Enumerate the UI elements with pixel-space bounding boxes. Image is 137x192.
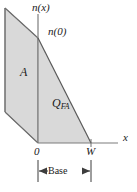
concentration-function-label: n(x) — [32, 2, 50, 13]
base-width-label: W — [86, 146, 95, 157]
base-dimension-label: Base — [48, 166, 67, 176]
concentration-at-zero-label: n(0) — [48, 26, 66, 37]
origin-label: 0 — [34, 146, 40, 157]
figure-container: n(x) n(0) A QFA 0 W x Base — [0, 0, 137, 192]
diagram-canvas — [0, 0, 137, 192]
base-arrowhead-right-icon — [82, 168, 90, 175]
base-arrowhead-left-icon — [39, 168, 47, 175]
area-label: A — [20, 66, 27, 78]
charge-symbol: Q — [52, 96, 61, 110]
charge-qfa-label: QFA — [52, 97, 70, 109]
x-axis-label: x — [123, 132, 128, 143]
charge-subscript: FA — [61, 102, 70, 111]
